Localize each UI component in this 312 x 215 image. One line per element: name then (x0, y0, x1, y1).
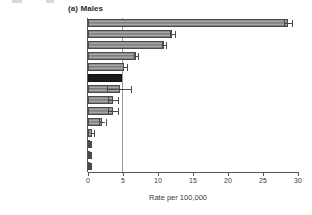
error-bar-line (284, 23, 292, 24)
error-bar-cap (91, 163, 92, 170)
error-bar-cap (123, 64, 124, 71)
bar-row: The Netherlands (88, 51, 298, 62)
chart-figure: (a) Males 051015202530 AustraliaUSASwede… (0, 0, 312, 215)
bar (88, 41, 164, 49)
x-tick-label: 20 (224, 177, 232, 184)
bar-row: Costa Rica (88, 117, 298, 128)
x-tick (158, 172, 159, 176)
error-bar-cap (127, 64, 128, 71)
bar (88, 30, 172, 38)
chart-title: (a) Males (68, 4, 103, 13)
x-tick (263, 172, 264, 176)
bar-row: China (88, 150, 298, 161)
error-bar-cap (91, 130, 92, 137)
error-bar-line (108, 100, 118, 101)
x-tick-label: 30 (294, 177, 302, 184)
error-bar-cap (91, 152, 92, 159)
x-tick (298, 172, 299, 176)
x-tick (123, 172, 124, 176)
bar-row: Japan (88, 161, 298, 172)
plot-area: 051015202530 AustraliaUSASwedenThe Nethe… (88, 18, 298, 172)
x-tick-label: 0 (86, 177, 90, 184)
x-axis-label-wrap: Rate per 100,000 (0, 193, 312, 202)
bar (88, 63, 124, 71)
bar-row: Australia (88, 18, 298, 29)
bar-row: India (88, 139, 298, 150)
error-bar-cap (134, 53, 135, 60)
error-bar-cap (292, 20, 293, 27)
error-bar-cap (131, 86, 132, 93)
error-bar-cap (108, 108, 109, 115)
x-tick (193, 172, 194, 176)
bar-row: Brazil (88, 106, 298, 117)
bar-row: England and Wales (88, 73, 298, 84)
bar-row: Estonia (88, 95, 298, 106)
x-tick (228, 172, 229, 176)
error-bar-cap (118, 97, 119, 104)
bar-row: Italy (88, 62, 298, 73)
x-axis-label: Rate per 100,000 (149, 193, 207, 202)
error-bar-cap (166, 42, 167, 49)
error-bar-cap (108, 97, 109, 104)
bar (88, 52, 136, 60)
error-bar-cap (94, 130, 95, 137)
bar (88, 19, 288, 27)
error-bar-cap (91, 141, 92, 148)
x-tick-label: 10 (154, 177, 162, 184)
error-bar-cap (284, 20, 285, 27)
bar (88, 74, 122, 82)
error-bar-cap (118, 108, 119, 115)
page-edge-artifact-secondary (46, 0, 54, 3)
error-bar-cap (170, 31, 171, 38)
error-bar-cap (162, 42, 163, 49)
error-bar-cap (99, 119, 100, 126)
error-bar-line (107, 89, 132, 90)
bar-row: Zimbabwe (88, 84, 298, 95)
bar-row: Singapore (88, 128, 298, 139)
x-tick-label: 5 (121, 177, 125, 184)
x-tick-label: 15 (189, 177, 197, 184)
x-tick-label: 25 (259, 177, 267, 184)
error-bar-cap (107, 86, 108, 93)
error-bar-cap (175, 31, 176, 38)
x-tick (88, 172, 89, 176)
page-edge-artifact (12, 0, 22, 3)
error-bar-line (108, 111, 118, 112)
bar-row: USA (88, 29, 298, 40)
bar-row: Sweden (88, 40, 298, 51)
error-bar-cap (106, 119, 107, 126)
error-bar-cap (138, 53, 139, 60)
